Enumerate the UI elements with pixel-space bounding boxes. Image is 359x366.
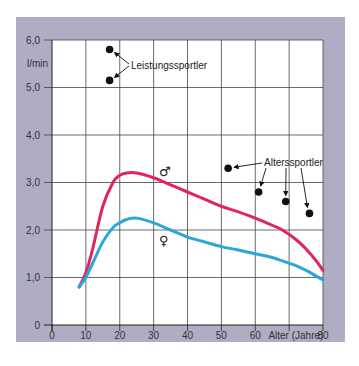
x-tick-label: 0 [49,330,55,341]
chart: 01,02,03,04,05,06,0010203040506080Alter … [0,0,359,366]
x-tick-label: 20 [114,330,126,341]
y-tick-label: 6,0 [26,35,40,46]
y-axis-unit: l/min [27,58,48,69]
y-tick-label: 1,0 [26,272,40,283]
y-tick-label: 3,0 [26,177,40,188]
leistungssportler-point [106,77,114,85]
alterssportler-point [224,164,232,172]
y-tick-label: 2,0 [26,225,40,236]
alterssportler-point [255,188,263,196]
leistungssportler-point [106,46,114,54]
leistungssportler-label: Leistungssportler [131,60,208,71]
alterssportler-label: Alterssportler [264,157,324,168]
x-tick-label: 50 [216,330,228,341]
y-tick-label: 0 [34,320,40,331]
x-tick-label: 10 [80,330,92,341]
x-tick-label: 60 [250,330,262,341]
alterssportler-point [306,210,314,218]
x-tick-label: 40 [182,330,194,341]
x-tick-label: 30 [148,330,160,341]
female-symbol: ♀ [159,233,169,248]
caption-bleed [16,352,346,362]
y-tick-label: 4,0 [26,130,40,141]
male-symbol: ♂ [159,164,171,179]
y-tick-label: 5,0 [26,82,40,93]
alterssportler-point [282,198,290,206]
x-axis-title: Alter (Jahre) [268,330,323,341]
